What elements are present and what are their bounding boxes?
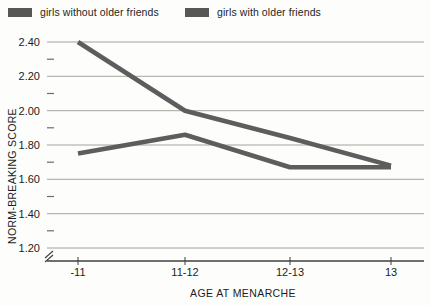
x-tick-label: 13 bbox=[385, 266, 397, 278]
x-tick-label: 12-13 bbox=[276, 266, 304, 278]
y-tick-label: 1.80 bbox=[19, 139, 40, 151]
y-tick-label: 2.00 bbox=[19, 105, 40, 117]
norm-breaking-line-chart: girls without older friends girls with o… bbox=[0, 0, 431, 306]
x-tick-label: 11-12 bbox=[171, 266, 198, 278]
plot-area: 2.402.202.001.801.601.401.20-1111-1212-1… bbox=[0, 0, 431, 306]
x-tick-label: -11 bbox=[70, 266, 85, 278]
x-axis-title: AGE AT MENARCHE bbox=[190, 287, 296, 299]
y-tick-label: 1.60 bbox=[19, 173, 40, 185]
y-axis-title: NORM-BREAKING SCORE bbox=[6, 108, 18, 244]
y-tick-label: 2.40 bbox=[19, 36, 40, 48]
y-tick-label: 1.20 bbox=[19, 242, 40, 254]
y-tick-label: 2.20 bbox=[19, 70, 40, 82]
y-tick-label: 1.40 bbox=[19, 208, 40, 220]
